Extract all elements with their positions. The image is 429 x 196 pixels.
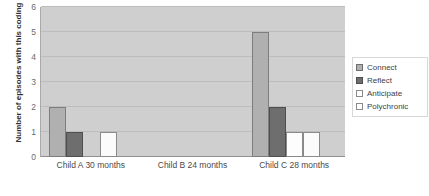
bar-group	[49, 7, 151, 157]
legend-swatch-icon	[356, 77, 363, 84]
y-axis-tick: 5	[20, 28, 36, 36]
plot-area	[40, 7, 345, 157]
bar-polychronic-3	[303, 132, 320, 157]
bar-reflect-1	[66, 132, 83, 157]
y-axis-tick-labels: 6543210	[20, 7, 36, 157]
legend-item-label: Anticipate	[367, 89, 402, 98]
bar-connect-1	[49, 107, 66, 157]
x-axis-tick-labels: Child A 30 monthsChild B 24 monthsChild …	[40, 160, 345, 178]
y-axis-tick: 3	[20, 78, 36, 86]
legend-item-anticipate[interactable]: Anticipate	[356, 87, 425, 100]
legend-swatch-icon	[356, 64, 363, 71]
bar-polychronic-1	[100, 132, 117, 157]
bar-group	[151, 7, 253, 157]
legend-item-polychronic[interactable]: Polychronic	[356, 100, 425, 113]
legend-item-label: Connect	[367, 63, 397, 72]
y-axis-tick: 2	[20, 103, 36, 111]
legend-swatch-icon	[356, 103, 363, 110]
legend-swatch-icon	[356, 90, 363, 97]
legend-item-reflect[interactable]: Reflect	[356, 74, 425, 87]
y-axis-tick: 1	[20, 128, 36, 136]
y-axis-tick: 0	[20, 153, 36, 161]
y-axis-tick: 4	[20, 53, 36, 61]
x-axis-tick: Child B 24 months	[142, 160, 244, 170]
bar-group	[252, 7, 354, 157]
bar-reflect-3	[269, 107, 286, 157]
chart-legend: ConnectReflectAnticipatePolychronic	[352, 57, 428, 117]
bar-connect-3	[252, 32, 269, 157]
bar-anticipate-3	[286, 132, 303, 157]
y-axis-tick: 6	[20, 3, 36, 11]
legend-item-label: Polychronic	[367, 102, 408, 111]
legend-item-connect[interactable]: Connect	[356, 61, 425, 74]
x-axis-tick: Child A 30 months	[40, 160, 142, 170]
legend-item-label: Reflect	[367, 76, 392, 85]
x-axis-tick: Child C 28 months	[243, 160, 345, 170]
bar-chart: Number of episodes with this coding 6543…	[0, 0, 429, 196]
